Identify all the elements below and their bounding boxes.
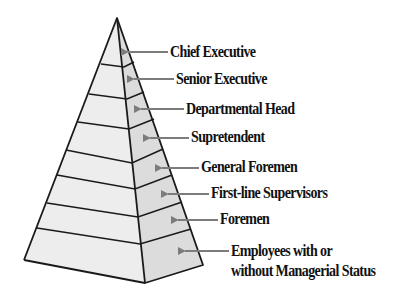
level-label-text: First-line Supervisors xyxy=(211,183,327,203)
level-label-foremen: Foremen xyxy=(220,209,269,229)
level-label-text-line-1: Employees with or xyxy=(231,241,375,261)
level-label-text: Foremen xyxy=(220,209,269,229)
level-label-text-line-2: without Managerial Status xyxy=(231,261,375,281)
level-label-senior-executive: Senior Executive xyxy=(176,69,267,89)
level-label-text: Departmental Head xyxy=(186,99,294,119)
level-label-text: Senior Executive xyxy=(176,69,267,89)
level-label-general-foremen: General Foremen xyxy=(201,157,297,177)
level-label-text: Chief Executive xyxy=(170,42,255,62)
level-label-departmental-head: Departmental Head xyxy=(186,99,294,119)
level-label-employees: Employees with or without Managerial Sta… xyxy=(231,241,375,281)
level-label-chief-executive: Chief Executive xyxy=(170,42,255,62)
level-label-text: Supretendent xyxy=(191,127,264,147)
level-label-supretendent: Supretendent xyxy=(191,127,264,147)
level-label-text: General Foremen xyxy=(201,157,297,177)
level-label-first-line-supervisors: First-line Supervisors xyxy=(211,183,327,203)
